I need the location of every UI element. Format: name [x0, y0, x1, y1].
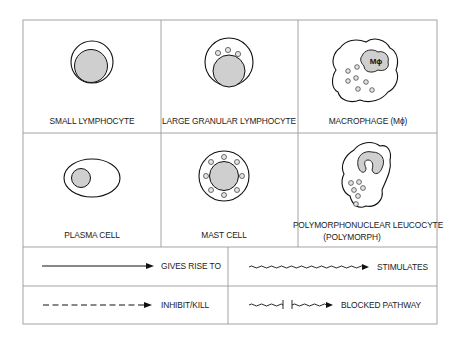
cell-plasma-cell: PLASMA CELL	[64, 159, 120, 240]
legend-inhibit-kill: INHIBIT/KILL	[43, 300, 210, 310]
mast-cell-icon	[199, 151, 249, 201]
large-granular-lymphocyte-icon	[205, 38, 253, 87]
legend-blocked-pathway: BLOCKED PATHWAY	[249, 300, 422, 310]
legend-label-gives-rise-to: GIVES RISE TO	[161, 261, 221, 271]
small-lymphocyte-icon	[71, 41, 113, 83]
legend-label-stimulates: STIMULATES	[377, 262, 428, 272]
cell-polymorph: POLYMORPHONUCLEAR LEUCOCYTE (POLYMORPH)	[293, 143, 444, 242]
label-macrophage: MACROPHAGE (Mϕ)	[329, 116, 408, 126]
legend: GIVES RISE TO STIMULATES INHIBIT/KILL	[42, 261, 428, 310]
macrophage-nucleus-label: Mϕ	[370, 57, 383, 66]
legend-stimulates: STIMULATES	[249, 262, 428, 272]
cell-large-granular-lymphocyte: LARGE GRANULAR LYMPHOCYTE	[162, 38, 297, 126]
macrophage-icon: Mϕ	[333, 39, 398, 101]
polymorph-icon	[342, 143, 391, 208]
dashed-arrow-icon	[43, 302, 152, 308]
label-mast-cell: MAST CELL	[201, 230, 247, 240]
solid-arrow-icon	[42, 263, 154, 269]
cell-macrophage: Mϕ MACROPHAGE (Mϕ)	[329, 39, 408, 126]
wavy-arrow-icon	[249, 264, 369, 270]
legend-label-inhibit-kill: INHIBIT/KILL	[161, 300, 210, 310]
cell-types-diagram: SMALL LYMPHOCYTE LARGE GRANULAR LYMPHOCY…	[0, 0, 459, 342]
blocked-wavy-arrow-icon	[249, 300, 333, 309]
label-large-granular-lymphocyte: LARGE GRANULAR LYMPHOCYTE	[162, 116, 297, 126]
cell-small-lymphocyte: SMALL LYMPHOCYTE	[50, 41, 135, 126]
label-small-lymphocyte: SMALL LYMPHOCYTE	[50, 116, 135, 126]
label-polymorph-line2: (POLYMORPH)	[323, 232, 381, 242]
cell-mast-cell: MAST CELL	[199, 151, 249, 240]
legend-label-blocked-pathway: BLOCKED PATHWAY	[341, 300, 422, 310]
plasma-cell-icon	[64, 159, 120, 197]
legend-gives-rise-to: GIVES RISE TO	[42, 261, 221, 271]
label-polymorph: POLYMORPHONUCLEAR LEUCOCYTE	[293, 220, 444, 230]
label-plasma-cell: PLASMA CELL	[64, 230, 120, 240]
